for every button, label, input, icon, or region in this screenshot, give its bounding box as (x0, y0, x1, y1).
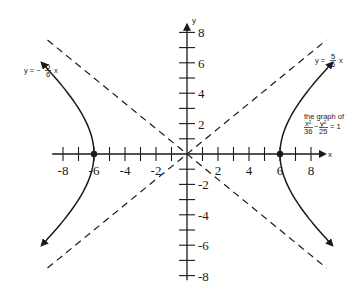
y-tick-label: 6 (198, 56, 205, 71)
vertex-point (277, 151, 283, 157)
asymptote-label-negative: y = − (24, 66, 41, 75)
equation-denominator: 25 (319, 127, 327, 136)
x-tick-label: -4 (120, 163, 131, 178)
y-axis-label: y (192, 16, 196, 25)
y-tick-label: -8 (198, 269, 209, 284)
hyperbola-chart: xy -8-6-4-224688642-2-4-6-8 y = −56xy =5… (0, 0, 362, 293)
x-tick-label: -2 (151, 163, 162, 178)
fraction-denominator: 6 (46, 70, 50, 79)
x-tick-label: 8 (308, 163, 315, 178)
equation-rhs: = 1 (330, 122, 341, 131)
x-tick-label: 6 (277, 163, 284, 178)
y-tick-label: 8 (198, 25, 205, 40)
hyperbola-branch (280, 63, 332, 154)
hyperbola-branch (280, 154, 332, 245)
x-axis-label: x (328, 150, 332, 159)
equation-denominator: 36 (304, 127, 312, 136)
vertex-point (91, 151, 97, 157)
asymptote-label-positive: y = (315, 56, 326, 65)
asymptote-label-x: x (339, 56, 343, 65)
fraction-denominator: 6 (331, 60, 335, 69)
asymptote-label-x: x (54, 66, 58, 75)
y-tick-label: 2 (198, 117, 205, 132)
x-tick-label: 2 (215, 163, 222, 178)
y-tick-label: -2 (198, 177, 209, 192)
x-tick-label: -6 (89, 163, 100, 178)
y-tick-label: 4 (198, 86, 205, 101)
y-tick-label: -4 (198, 208, 209, 223)
y-tick-label: -6 (198, 238, 209, 253)
x-tick-label: -8 (58, 163, 69, 178)
x-tick-label: 4 (246, 163, 253, 178)
